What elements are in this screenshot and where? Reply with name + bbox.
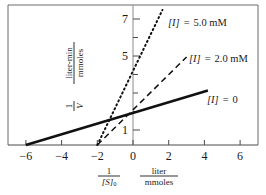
series-label-2mM: [I]=2.0 mM bbox=[189, 53, 249, 64]
x-tick-label: 4 bbox=[201, 149, 207, 163]
x-label-numerator: 1 bbox=[107, 166, 112, 176]
x-label-units-numerator: liter bbox=[152, 166, 167, 176]
x-label-units-denominator: mmoles bbox=[145, 177, 174, 187]
series-label-no-inhibitor: [I]=0 bbox=[207, 94, 238, 105]
y-tick-label: 7 bbox=[122, 12, 128, 26]
y-label-units-numerator: liter-min bbox=[64, 47, 74, 79]
y-tick-label: 1 bbox=[122, 123, 128, 137]
x-tick-label: 0 bbox=[130, 149, 136, 163]
x-tick-label: 2 bbox=[166, 149, 172, 163]
x-tick-label: 6 bbox=[237, 149, 243, 163]
series-label-5mM: [I]=5.0 mM bbox=[168, 17, 228, 28]
lineweaver-burk-plot: −6 −4 −2 0 2 4 6 1 5 7 bbox=[0, 0, 266, 195]
y-label-units-denominator: mmoles bbox=[75, 48, 85, 77]
y-label-numerator: 1 bbox=[64, 104, 74, 109]
x-tick-label: −6 bbox=[20, 149, 33, 163]
x-tick-label: −2 bbox=[91, 149, 104, 163]
y-tick-label: 5 bbox=[122, 49, 128, 63]
x-tick-label: −4 bbox=[55, 149, 68, 163]
